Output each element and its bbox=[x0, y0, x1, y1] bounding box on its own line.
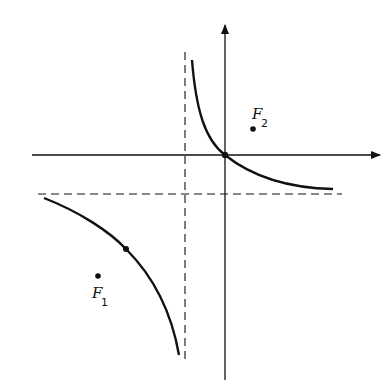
intersection-point bbox=[222, 152, 228, 158]
branch-point bbox=[123, 246, 129, 252]
hyperbola-diagram: F 2 F 1 bbox=[0, 0, 389, 392]
focus-f2-subscript: 2 bbox=[261, 117, 268, 130]
focus-f1-dot bbox=[95, 273, 101, 279]
hyperbola-branch-lower-left bbox=[44, 198, 179, 355]
focus-f1-subscript: 1 bbox=[101, 296, 108, 309]
focus-f2-dot bbox=[250, 126, 256, 132]
